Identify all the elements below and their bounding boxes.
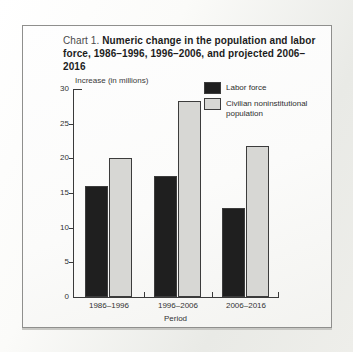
- chart-number: Chart 1.: [63, 35, 99, 46]
- chart-card: Chart 1. Numeric change in the populatio…: [22, 25, 332, 328]
- bar-civilian-noninstitutional-population-1986-1996: [109, 158, 132, 297]
- y-tick-label: 15: [47, 188, 69, 197]
- y-tick-label: 0: [47, 292, 69, 301]
- page-background: Chart 1. Numeric change in the populatio…: [0, 0, 353, 352]
- y-tick-label: 30: [47, 84, 69, 93]
- x-tick: [212, 292, 213, 297]
- y-tick: [69, 228, 74, 229]
- chart-title-text: Numeric change in the population and lab…: [63, 35, 315, 72]
- bar-labor-force-1996-2006: [154, 176, 177, 297]
- x-category-label: 1996–2006: [144, 301, 212, 310]
- y-tick-label: 5: [47, 257, 69, 266]
- y-axis-title: Increase (in millions): [75, 76, 148, 85]
- bar-labor-force-1986-1996: [85, 186, 108, 297]
- y-tick: [69, 262, 74, 263]
- y-tick: [69, 158, 74, 159]
- plot-area: 0510152025301986–19961996–20062006–2016: [73, 89, 279, 298]
- x-tick: [144, 292, 145, 297]
- y-tick: [69, 124, 74, 125]
- bar-civilian-noninstitutional-population-1996-2006: [178, 101, 201, 297]
- x-axis-title: Period: [73, 314, 278, 323]
- y-tick-label: 25: [47, 119, 69, 128]
- x-axis-end-cap: [278, 292, 279, 297]
- bar-labor-force-2006-2016: [222, 208, 245, 297]
- x-category-label: 2006–2016: [212, 301, 280, 310]
- y-tick-label: 10: [47, 223, 69, 232]
- y-axis-top-cap: [74, 89, 82, 90]
- y-tick: [69, 193, 74, 194]
- chart-title: Chart 1. Numeric change in the populatio…: [63, 34, 325, 73]
- x-category-label: 1986–1996: [75, 301, 143, 310]
- bar-civilian-noninstitutional-population-2006-2016: [246, 146, 269, 297]
- y-tick-label: 20: [47, 153, 69, 162]
